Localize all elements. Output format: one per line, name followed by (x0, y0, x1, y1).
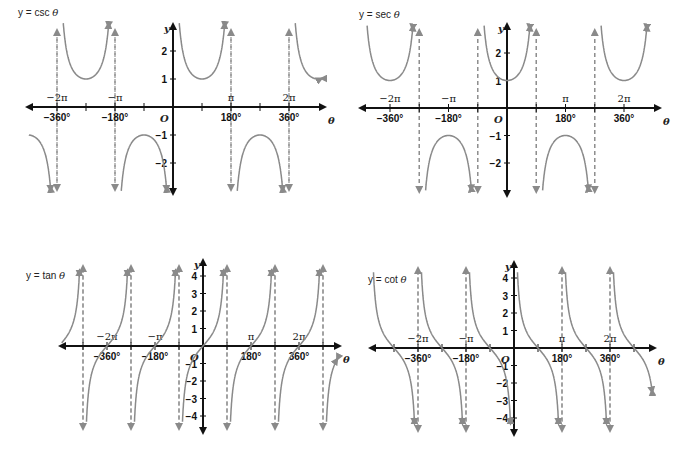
x-tick-label-rad: −π (459, 333, 474, 344)
y-axis-label: y (163, 23, 171, 34)
x-tick-label-deg: −360° (44, 112, 71, 123)
curve-branch (179, 23, 224, 79)
graph-title: y = tan θ (26, 270, 65, 281)
x-tick-label-rad: −2π (46, 92, 68, 103)
x-tick-label-rad: −π (108, 92, 123, 103)
y-tick-label: 2 (191, 306, 197, 317)
curve-branch (29, 135, 51, 191)
x-tick-label-deg: −360° (405, 353, 432, 364)
y-tick-label: −3 (186, 394, 198, 405)
curve-branch (601, 26, 647, 81)
x-tick-label-rad: π (248, 331, 255, 342)
y-axis-label: y (193, 259, 201, 270)
origin-label: O (501, 354, 510, 365)
curve-branch (295, 23, 321, 79)
x-axis-label: θ (658, 356, 665, 367)
x-tick-label-deg: −180° (435, 113, 462, 124)
x-tick-label-deg: 360° (289, 351, 310, 362)
x-tick-label-rad: 2π (283, 92, 296, 103)
x-tick-label-rad: −2π (379, 93, 401, 104)
x-tick-label-rad: −π (441, 93, 456, 104)
graph-csc: y = csc θ−360°−2π−180°−π180°π360°2π21−1−… (18, 7, 335, 194)
x-tick-label-rad: π (559, 333, 566, 344)
curve-branch (327, 359, 338, 422)
curve-branch (614, 272, 653, 392)
curve-branch (543, 136, 589, 191)
x-tick-label-deg: 180° (241, 351, 262, 362)
y-tick-label: −2 (156, 158, 168, 169)
y-tick-label: 2 (495, 48, 501, 59)
y-axis-label: y (504, 261, 512, 272)
y-tick-label: 2 (502, 308, 508, 319)
y-tick-label: 4 (502, 273, 508, 284)
y-tick-label: 3 (191, 289, 197, 300)
origin-label: O (160, 113, 169, 124)
y-tick-label: 2 (161, 46, 167, 57)
graph-title: y = sec θ (359, 9, 400, 20)
x-tick-label-rad: π (228, 92, 235, 103)
y-tick-label: 1 (502, 326, 508, 337)
x-tick-label-deg: 180° (552, 353, 573, 364)
curve-branch (63, 23, 108, 79)
y-tick-label: −2 (490, 158, 502, 169)
y-tick-label: 1 (191, 324, 197, 335)
graph-sec: y = sec θ−360°−2π−180°−π180°π360°2π21−1−… (359, 9, 670, 196)
y-tick-label: 3 (502, 291, 508, 302)
y-axis-label: y (497, 23, 505, 34)
x-tick-label-rad: 2π (618, 93, 631, 104)
x-tick-label-deg: 180° (555, 113, 576, 124)
x-tick-label-deg: 180° (221, 112, 242, 123)
y-tick-label: 4 (191, 271, 197, 282)
y-tick-label: −1 (156, 130, 168, 141)
y-tick-label: −4 (497, 413, 509, 424)
y-tick-label: −4 (186, 411, 198, 422)
origin-label: O (494, 114, 503, 125)
graph-cot: y = cot θ−360°−2π−180°−π180°π360°2π4321−… (368, 261, 665, 435)
x-tick-label-rad: 2π (604, 333, 617, 344)
y-tick-label: −1 (490, 131, 502, 142)
y-tick-label: −3 (497, 396, 509, 407)
x-tick-label-deg: −180° (142, 351, 169, 362)
x-axis-label: θ (343, 354, 350, 365)
curve-branch (62, 270, 80, 343)
trig-graphs-canvas: y = csc θ−360°−2π−180°−π180°π360°2π21−1−… (0, 0, 693, 460)
x-tick-label-deg: 360° (600, 353, 621, 364)
x-tick-label-deg: 360° (279, 112, 300, 123)
y-tick-label: 1 (161, 74, 167, 85)
x-axis-label: θ (663, 116, 670, 127)
x-tick-label-deg: −360° (94, 351, 121, 362)
curve-branch (237, 135, 282, 191)
x-tick-label-rad: π (562, 93, 569, 104)
x-tick-label-deg: −180° (453, 353, 480, 364)
graph-tan: y = tan θ−360°−2π−180°−π180°π360°2π4321−… (26, 259, 350, 433)
curve-branch (426, 136, 472, 191)
x-tick-label-deg: −180° (102, 112, 129, 123)
graph-title: y = csc θ (18, 7, 58, 18)
x-axis-label: θ (328, 115, 335, 126)
curve-branch (367, 26, 413, 81)
x-tick-label-deg: −360° (377, 113, 404, 124)
x-tick-label-rad: −2π (407, 333, 429, 344)
x-tick-label-deg: 360° (614, 113, 635, 124)
